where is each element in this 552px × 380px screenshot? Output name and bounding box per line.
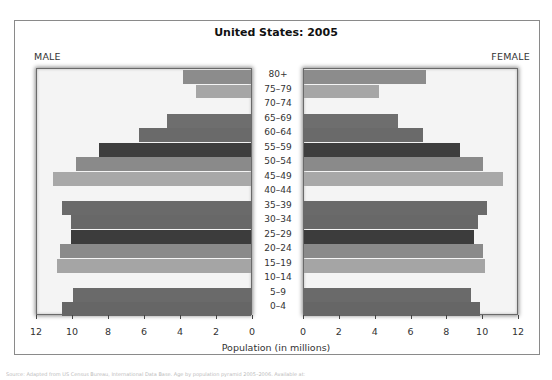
age-group-label: 30–34 (256, 213, 300, 227)
age-group-label: 10–14 (256, 271, 300, 285)
female-bar (304, 143, 460, 157)
male-bar (139, 128, 251, 142)
male-axis-tick-label: 8 (98, 326, 118, 337)
source-note: Source: Adapted from US Census Bureau, I… (6, 371, 546, 377)
female-axis-tick-label: 4 (365, 326, 385, 337)
male-bar (196, 85, 251, 99)
male-bar (76, 157, 251, 171)
male-bar (183, 70, 251, 84)
female-bar (304, 128, 423, 142)
age-group-label: 5–9 (256, 286, 300, 300)
male-axis-tick-label: 6 (134, 326, 154, 337)
male-axis-tick (108, 315, 109, 319)
female-axis-tick-label: 2 (329, 326, 349, 337)
male-axis-tick-label: 2 (206, 326, 226, 337)
female-axis-tick-label: 6 (401, 326, 421, 337)
female-bar (304, 230, 474, 244)
male-axis-tick-label: 4 (170, 326, 190, 337)
male-bar (71, 215, 251, 229)
male-bar (57, 259, 251, 273)
female-axis-tick (375, 315, 376, 319)
age-group-label: 0–4 (256, 300, 300, 314)
age-group-label: 15–19 (256, 257, 300, 271)
female-axis-tick-label: 10 (472, 326, 492, 337)
age-group-label: 20–24 (256, 242, 300, 256)
male-axis-tick (144, 315, 145, 319)
male-axis-tick (72, 315, 73, 319)
age-group-labels: 80+75–7970–7465–6960–6455–5950–5445–4940… (256, 68, 300, 315)
male-axis-tick (36, 315, 37, 319)
female-axis-tick (339, 315, 340, 319)
male-axis-tick-label: 12 (26, 326, 46, 337)
age-group-label: 70–74 (256, 97, 300, 111)
age-group-label: 50–54 (256, 155, 300, 169)
male-axis-tick (180, 315, 181, 319)
female-axis-tick-label: 0 (293, 326, 313, 337)
female-bar (304, 172, 503, 186)
female-bar (304, 114, 398, 128)
female-axis-tick (446, 315, 447, 319)
female-axis-tick (303, 315, 304, 319)
female-bar (304, 215, 478, 229)
age-group-label: 45–49 (256, 170, 300, 184)
age-group-label: 80+ (256, 68, 300, 82)
female-axis-tick (482, 315, 483, 319)
female-bar (304, 302, 480, 316)
age-group-label: 65–69 (256, 112, 300, 126)
male-axis-tick-label: 0 (242, 326, 262, 337)
age-group-label: 25–29 (256, 228, 300, 242)
x-axis-label: Population (in millions) (0, 342, 552, 353)
female-bar (304, 244, 483, 258)
female-axis-tick (411, 315, 412, 319)
male-axis-tick-label: 10 (62, 326, 82, 337)
female-plot-area (303, 68, 518, 315)
female-label: FEMALE (491, 51, 530, 62)
female-bar (304, 157, 483, 171)
male-label: MALE (34, 51, 61, 62)
male-bar (71, 230, 251, 244)
age-group-label: 75–79 (256, 83, 300, 97)
female-axis-tick (518, 315, 519, 319)
male-axis-tick (252, 315, 253, 319)
age-group-label: 55–59 (256, 141, 300, 155)
age-group-label: 60–64 (256, 126, 300, 140)
male-bar (73, 288, 251, 302)
chart-title: United States: 2005 (0, 26, 552, 39)
male-bar (62, 201, 251, 215)
female-bar (304, 201, 487, 215)
male-plot-area (36, 68, 252, 315)
female-bar (304, 85, 379, 99)
male-bar (99, 143, 251, 157)
male-bar (60, 244, 251, 258)
female-bar (304, 259, 485, 273)
male-bar (167, 114, 251, 128)
male-bar (62, 302, 251, 316)
male-bar (53, 172, 251, 186)
age-group-label: 40–44 (256, 184, 300, 198)
age-group-label: 35–39 (256, 199, 300, 213)
female-axis-tick-label: 8 (436, 326, 456, 337)
male-axis-tick (216, 315, 217, 319)
female-axis-tick-label: 12 (508, 326, 528, 337)
female-bar (304, 288, 471, 302)
female-bar (304, 70, 426, 84)
